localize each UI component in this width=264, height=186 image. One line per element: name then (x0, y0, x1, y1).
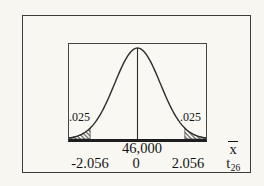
t-symbol-subscript: 26 (231, 163, 241, 173)
figure: .025 .025 46,000 -2.056 0 2.056 x t26 (0, 0, 264, 186)
t-axis-symbol: t26 (223, 155, 243, 172)
distribution-plot (68, 43, 207, 142)
t-tick-positive: 2.056 (157, 155, 219, 172)
right-tail-area-label: .025 (180, 110, 201, 125)
left-tail-area-label: .025 (69, 110, 90, 125)
t-symbol-base: t (226, 155, 230, 171)
